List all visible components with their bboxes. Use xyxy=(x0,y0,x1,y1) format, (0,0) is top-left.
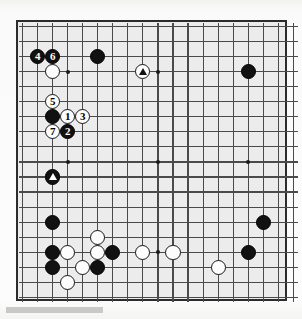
move-stone-4[interactable]: 4 xyxy=(30,49,45,64)
move-number-label: 2 xyxy=(65,126,70,137)
stone-black[interactable] xyxy=(45,260,60,275)
stone-black[interactable] xyxy=(45,215,60,230)
stone-white[interactable] xyxy=(90,230,105,245)
stone-white[interactable] xyxy=(60,245,75,260)
stone-white[interactable] xyxy=(135,245,150,260)
stone-black[interactable] xyxy=(241,64,256,79)
page-root: 1234567 xyxy=(0,0,302,319)
triangle-marker-icon xyxy=(139,68,147,75)
triangle-marker-icon xyxy=(49,173,57,180)
go-board[interactable]: 1234567 xyxy=(16,20,287,301)
stone-black[interactable] xyxy=(256,215,271,230)
stone-black-triangle-marked[interactable] xyxy=(45,169,60,184)
stone-white[interactable] xyxy=(90,245,105,260)
move-stone-7[interactable]: 7 xyxy=(45,124,60,139)
grid-line-vertical xyxy=(293,23,294,303)
move-stone-3[interactable]: 3 xyxy=(75,109,90,124)
move-number-label: 1 xyxy=(65,111,70,122)
stone-white-triangle-marked[interactable] xyxy=(135,64,150,79)
stone-black[interactable] xyxy=(90,49,105,64)
move-number-label: 3 xyxy=(80,111,85,122)
stone-black[interactable] xyxy=(45,245,60,260)
stone-white[interactable] xyxy=(45,64,60,79)
move-number-label: 5 xyxy=(50,96,55,107)
footer-bar xyxy=(6,307,103,313)
stone-white[interactable] xyxy=(60,275,75,290)
move-number-label: 7 xyxy=(50,126,55,137)
stone-black[interactable] xyxy=(90,260,105,275)
stone-layer[interactable]: 1234567 xyxy=(16,20,287,301)
stone-white[interactable] xyxy=(211,260,226,275)
move-stone-1[interactable]: 1 xyxy=(60,109,75,124)
stone-white[interactable] xyxy=(165,245,180,260)
stone-white[interactable] xyxy=(75,260,90,275)
move-number-label: 4 xyxy=(35,51,40,62)
move-stone-6[interactable]: 6 xyxy=(45,49,60,64)
move-stone-2[interactable]: 2 xyxy=(60,124,75,139)
move-stone-5[interactable]: 5 xyxy=(45,94,60,109)
stone-black[interactable] xyxy=(105,245,120,260)
stone-black[interactable] xyxy=(241,245,256,260)
move-number-label: 6 xyxy=(50,51,55,62)
stone-black[interactable] xyxy=(45,109,60,124)
